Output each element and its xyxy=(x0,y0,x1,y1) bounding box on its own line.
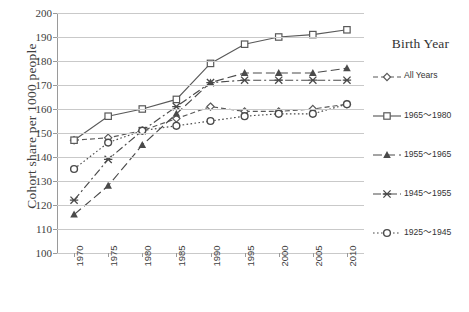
gridline xyxy=(57,205,364,206)
x-tick-label: 2005 xyxy=(313,236,324,276)
data-point-square xyxy=(173,96,179,102)
data-point-square xyxy=(241,41,247,47)
y-tick-label: 150 xyxy=(16,128,52,138)
y-tick-label: 190 xyxy=(16,32,52,42)
gridline xyxy=(57,13,364,14)
y-tick-label: 130 xyxy=(16,176,52,186)
legend-item[interactable]: 1965～1980 xyxy=(372,107,469,121)
y-tick-mark xyxy=(53,181,57,182)
data-point-square xyxy=(71,137,77,143)
data-point-circle xyxy=(207,118,214,125)
legend-item-label: 1955～1965 xyxy=(402,147,451,159)
legend-marker-diamond-icon xyxy=(372,69,402,81)
data-point-circle xyxy=(344,101,351,108)
y-tick-mark xyxy=(53,205,57,206)
legend-item-label: All Years xyxy=(402,70,437,80)
x-tick-label: 2010 xyxy=(347,236,358,276)
data-point-square xyxy=(344,27,350,33)
data-point-circle xyxy=(71,166,78,173)
y-tick-label: 160 xyxy=(16,104,52,114)
plot-area xyxy=(57,13,364,253)
legend-item[interactable]: 1955～1965 xyxy=(372,146,469,160)
gridline xyxy=(57,109,364,110)
y-tick-label: 180 xyxy=(16,56,52,66)
legend-marker-x-icon xyxy=(372,186,402,198)
gridline xyxy=(57,133,364,134)
data-point-x xyxy=(309,77,317,84)
legend-items: All Years1965～19801955～19651945～19551925… xyxy=(372,68,469,238)
x-axis-tick-labels: 197019751980198519901995200020052010 xyxy=(57,256,364,306)
data-point-circle xyxy=(241,113,248,120)
y-tick-mark xyxy=(53,133,57,134)
legend-item[interactable]: 1925～1945 xyxy=(372,224,469,238)
legend-item-label: 1965～1980 xyxy=(402,108,451,120)
data-point-triangle xyxy=(104,182,112,189)
series-line xyxy=(74,68,347,214)
data-point-x xyxy=(343,77,351,84)
x-tick-label: 1975 xyxy=(108,236,119,276)
legend-item[interactable]: 1945～1955 xyxy=(372,185,469,199)
y-tick-mark xyxy=(53,37,57,38)
legend: Birth Year All Years1965～19801955～196519… xyxy=(372,36,469,263)
y-tick-label: 120 xyxy=(16,200,52,210)
line-chart: Cohort share per 1000 people 20019018017… xyxy=(0,0,469,312)
x-tick-label: 1995 xyxy=(245,236,256,276)
y-tick-label: 110 xyxy=(16,224,52,234)
y-tick-mark xyxy=(53,85,57,86)
x-tick-label: 1990 xyxy=(211,236,222,276)
y-tick-label: 200 xyxy=(16,8,52,18)
x-tick-label: 2000 xyxy=(279,236,290,276)
legend-marker-triangle-icon xyxy=(372,147,402,159)
series-1945-1955 xyxy=(70,77,351,204)
legend-item-label: 1945～1955 xyxy=(402,186,451,198)
y-tick-mark xyxy=(53,157,57,158)
gridline xyxy=(57,61,364,62)
y-tick-label: 100 xyxy=(16,248,52,258)
data-point-x xyxy=(240,77,248,84)
series-1955-1965 xyxy=(70,64,350,217)
data-point-x xyxy=(275,77,283,84)
y-tick-mark xyxy=(53,109,57,110)
y-tick-mark xyxy=(53,13,57,14)
gridline xyxy=(57,157,364,158)
data-point-circle xyxy=(173,122,180,129)
series-line xyxy=(74,80,347,200)
x-tick-label: 1985 xyxy=(176,236,187,276)
legend-marker-square-icon xyxy=(372,108,402,120)
data-point-triangle xyxy=(343,64,351,71)
y-tick-label: 140 xyxy=(16,152,52,162)
data-point-circle xyxy=(309,110,316,117)
y-tick-mark xyxy=(53,253,57,254)
data-point-circle xyxy=(384,230,391,237)
x-tick-label: 1970 xyxy=(74,236,85,276)
y-axis-tick-labels: 200190180170160150140130120110100 xyxy=(12,0,52,312)
data-point-circle xyxy=(275,110,282,117)
x-tick-label: 1980 xyxy=(142,236,153,276)
gridline xyxy=(57,85,364,86)
legend-item-label: 1925～1945 xyxy=(402,225,451,237)
gridline xyxy=(57,229,364,230)
y-tick-mark xyxy=(53,229,57,230)
data-point-diamond xyxy=(383,73,390,80)
y-tick-label: 170 xyxy=(16,80,52,90)
gridline xyxy=(57,181,364,182)
data-point-triangle xyxy=(138,141,146,148)
y-tick-mark xyxy=(53,61,57,62)
data-point-circle xyxy=(105,139,112,146)
data-point-square xyxy=(384,113,390,119)
series-1925-1945 xyxy=(71,101,351,173)
data-point-x xyxy=(383,190,391,197)
data-point-x xyxy=(70,197,78,204)
legend-title: Birth Year xyxy=(372,36,469,52)
legend-marker-circle-icon xyxy=(372,225,402,237)
data-point-square xyxy=(105,113,111,119)
gridline xyxy=(57,37,364,38)
legend-item[interactable]: All Years xyxy=(372,68,469,82)
